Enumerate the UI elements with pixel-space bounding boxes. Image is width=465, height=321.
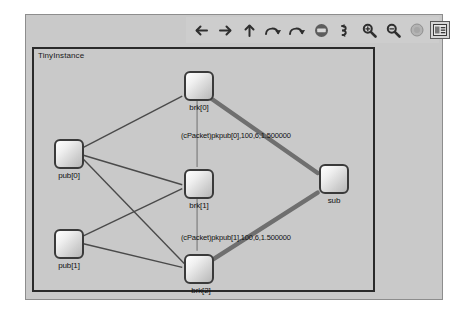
back-arrow-icon[interactable] xyxy=(190,19,212,41)
node-label-pub0: pub[0] xyxy=(58,171,80,180)
node-pub1[interactable] xyxy=(54,229,84,259)
app-root: TinyInstance xyxy=(0,0,465,321)
labels-toggle-icon[interactable] xyxy=(430,21,450,39)
node-brk2[interactable] xyxy=(184,254,214,284)
packet-label-pub0: (cPacket)pkpub[0],100,6,1.500000 xyxy=(181,131,291,140)
edge-brk2-sub xyxy=(210,193,318,262)
node-label-brk2: brk[2] xyxy=(191,286,210,295)
node-label-brk1: brk[1] xyxy=(189,201,208,210)
node-brk0[interactable] xyxy=(184,71,214,101)
packet-label-pub1: (cPacket)pkpub[1],100,6,1.500000 xyxy=(181,233,291,242)
node-sub[interactable] xyxy=(319,164,349,194)
run-icon[interactable] xyxy=(286,19,308,41)
toolbar xyxy=(186,17,439,43)
edge-pub1-brk2 xyxy=(83,244,182,268)
forward-arrow-icon[interactable] xyxy=(214,19,236,41)
edge-pub0-brk0 xyxy=(83,96,182,147)
network-canvas[interactable]: TinyInstance xyxy=(32,47,375,292)
node-pub0[interactable] xyxy=(54,139,84,169)
thin-edges xyxy=(83,96,184,267)
rerun-icon[interactable] xyxy=(334,19,356,41)
node-label-sub: sub xyxy=(328,196,341,205)
edge-pub1-brk1 xyxy=(83,189,182,236)
relayout-icon[interactable] xyxy=(406,19,428,41)
zoom-out-icon[interactable] xyxy=(382,19,404,41)
simulation-window: TinyInstance xyxy=(25,14,443,300)
stop-icon[interactable] xyxy=(310,19,332,41)
zoom-in-icon[interactable] xyxy=(358,19,380,41)
node-label-pub1: pub[1] xyxy=(58,261,80,270)
node-brk1[interactable] xyxy=(184,169,214,199)
edge-pub0-brk1 xyxy=(83,155,182,185)
up-arrow-icon[interactable] xyxy=(238,19,260,41)
step-icon[interactable] xyxy=(262,19,284,41)
node-label-brk0: brk[0] xyxy=(189,103,208,112)
